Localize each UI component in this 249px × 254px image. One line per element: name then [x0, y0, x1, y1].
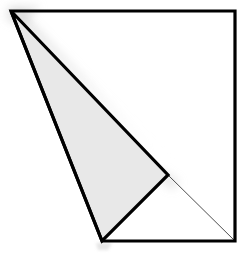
geometry-figure — [0, 0, 249, 254]
figure-canvas — [0, 0, 249, 254]
